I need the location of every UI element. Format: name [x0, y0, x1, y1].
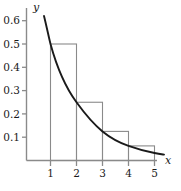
y-tick-label-0.6: 0.6	[3, 14, 20, 26]
x-tick-label-3: 3	[99, 167, 106, 179]
x-tick-label-1: 1	[47, 167, 54, 179]
y-tick-label-0.2: 0.2	[3, 108, 20, 120]
x-tick-label-2: 2	[73, 167, 80, 179]
rectangle-bar-2	[77, 102, 103, 160]
y-tick-label-0.3: 0.3	[3, 84, 20, 96]
rectangle-bar-3	[103, 131, 129, 160]
y-axis-tick-labels: 0.6 0.5 0.4 0.3 0.2 0.1	[3, 14, 20, 143]
exponential-decay-curve	[44, 16, 164, 155]
riemann-rectangles	[51, 44, 155, 161]
y-tick-label-0.4: 0.4	[3, 61, 20, 73]
y-axis-label: y	[32, 1, 40, 14]
x-axis-ticks	[51, 161, 155, 167]
rectangle-bar-1	[51, 44, 77, 161]
x-axis-tick-labels: 1 2 3 4 5	[47, 167, 158, 179]
y-tick-label-0.5: 0.5	[3, 38, 20, 50]
x-axis-label: x	[165, 154, 172, 167]
x-tick-label-5: 5	[151, 167, 158, 179]
y-tick-label-0.1: 0.1	[3, 131, 20, 143]
plot-area: 0.6 0.5 0.4 0.3 0.2 0.1 1 2 3 4 5	[0, 0, 181, 191]
riemann-sum-figure: 0.6 0.5 0.4 0.3 0.2 0.1 1 2 3 4 5	[0, 0, 181, 191]
x-tick-label-4: 4	[125, 167, 132, 179]
